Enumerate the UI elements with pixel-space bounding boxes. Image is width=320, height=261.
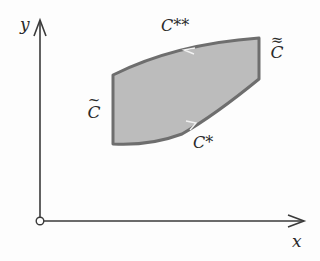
diagram-canvas: y x C** C* ~ C ≈ C: [0, 0, 320, 261]
x-axis-label: x: [292, 233, 302, 250]
c-tilde-label: ~ C: [85, 96, 103, 121]
c-star-label: C*: [193, 135, 213, 151]
y-axis-label: y: [20, 16, 30, 33]
origin-marker-icon: [36, 217, 44, 225]
shaded-region: [113, 38, 259, 144]
c-double-tilde-label: ≈ C: [268, 36, 286, 61]
c-double-star-label: C**: [161, 18, 189, 34]
double-tilde-letter: C: [268, 44, 286, 61]
tilde-letter: C: [85, 104, 103, 121]
